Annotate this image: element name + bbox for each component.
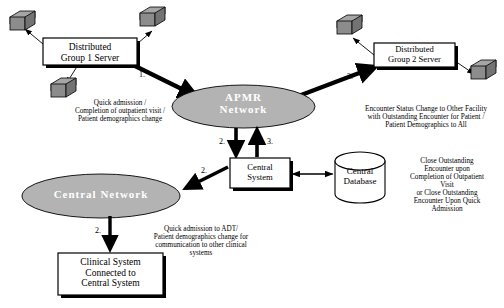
computer-icon-top-left [10,11,35,30]
step-label-3-central-system-to-apmr: 3. [263,138,277,147]
group2-server-label: Distributed Group 2 Server [374,45,455,64]
computer-icon-below-group1 [51,78,76,97]
clinical-system-label: Clinical System Connected to Central Sys… [58,257,163,289]
left-flow-annotation: Quick admission / Completion of outpatie… [44,99,196,123]
clinical-flow-annotation: Quick admission to ADT/ Patient demograp… [131,225,271,257]
step-label-2-central-network-to-clinical: 2. [91,227,105,236]
step-label-2-central-system-to-central-network: 2. [197,167,211,176]
database-flow-annotation: Close Outstanding Encounter upon Complet… [392,157,502,213]
computer-icon-above-group2 [337,15,362,34]
central-database-label: Central Database [333,166,387,186]
group1-server-label: Distributed Group 1 Server [43,42,137,63]
diagram-canvas: Distributed Group 1 Server Distributed G… [0,0,504,308]
right-flow-annotation: Encounter Status Change to Other Facilit… [348,105,504,129]
step-label-2-apmr-to-central-system: 2. [215,138,229,147]
step-label-1-group1-to-apmr: 1. [135,71,149,80]
computer-icon-right-of-group2 [471,60,496,79]
step-label-3-apmr-to-group2: 3. [343,73,357,82]
central-system-label: Central System [230,163,290,182]
computer-icon-top-right-of-group1 [140,7,165,26]
central-network-label: Central Network [22,188,180,200]
